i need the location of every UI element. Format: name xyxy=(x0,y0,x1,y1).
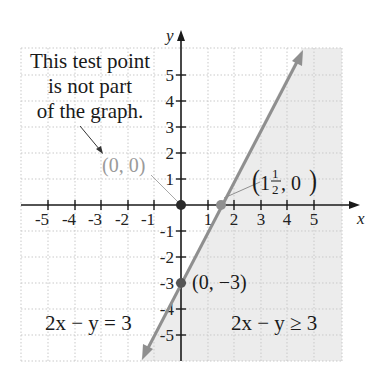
y-intercept-point xyxy=(176,278,186,288)
svg-text:3: 3 xyxy=(257,210,266,229)
svg-text:): ) xyxy=(309,163,317,196)
region-inequality: 2x − y ≥ 3 xyxy=(231,311,317,335)
x-axis-label: x xyxy=(356,209,365,228)
svg-text:4: 4 xyxy=(166,92,175,111)
test-point xyxy=(176,200,186,210)
line-arrow-top-icon xyxy=(292,50,303,66)
svg-text:is not part: is not part xyxy=(48,74,132,98)
svg-text:(: ( xyxy=(252,163,260,196)
svg-text:2: 2 xyxy=(230,210,239,229)
svg-text:-1: -1 xyxy=(160,222,174,241)
svg-text:-5: -5 xyxy=(160,326,174,345)
svg-text:2: 2 xyxy=(272,182,279,197)
svg-text:-2: -2 xyxy=(115,210,129,229)
svg-text:, 0: , 0 xyxy=(281,172,301,194)
y-intercept-label: (0, −3) xyxy=(192,271,247,294)
svg-text:5: 5 xyxy=(310,210,319,229)
inequality-graph: -5 -4 -3 -2 -1 1 2 3 4 5 5 4 3 2 1 -1 -2… xyxy=(0,0,385,379)
svg-text:1: 1 xyxy=(272,166,279,181)
svg-text:1: 1 xyxy=(260,172,270,194)
test-point-label: (0, 0) xyxy=(102,154,145,177)
y-axis-label: y xyxy=(164,26,174,45)
svg-text:3: 3 xyxy=(166,118,175,137)
svg-text:4: 4 xyxy=(283,210,292,229)
y-axis-arrow-icon xyxy=(177,30,185,41)
svg-text:5: 5 xyxy=(166,66,175,85)
svg-text:2: 2 xyxy=(166,144,175,163)
x-axis-arrow-icon xyxy=(349,201,360,209)
svg-text:-2: -2 xyxy=(160,248,174,267)
svg-text:-5: -5 xyxy=(35,210,49,229)
test-point-note: This test point is not part of the graph… xyxy=(30,49,150,123)
boundary-equation: 2x − y = 3 xyxy=(45,311,132,335)
svg-text:1: 1 xyxy=(166,170,175,189)
svg-text:This test point: This test point xyxy=(30,49,150,73)
svg-text:-3: -3 xyxy=(88,210,102,229)
svg-text:of the graph.: of the graph. xyxy=(37,99,144,123)
note-arrow xyxy=(80,126,100,150)
svg-text:-4: -4 xyxy=(62,210,77,229)
x-intercept-point xyxy=(216,200,226,210)
svg-text:-1: -1 xyxy=(141,210,155,229)
svg-text:-3: -3 xyxy=(160,274,174,293)
